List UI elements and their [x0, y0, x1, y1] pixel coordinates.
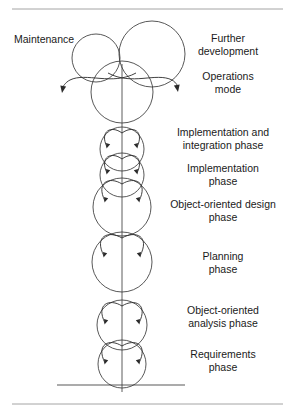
- loop-object-oriented-design-right-arrowhead: [136, 197, 140, 203]
- label-further-development: Further development: [168, 32, 288, 57]
- loop-requirements-right-arrowhead: [136, 359, 140, 365]
- loop-object-oriented-analysis-right-arrowhead: [136, 319, 140, 325]
- loop-object-oriented-design-left-arrowhead: [104, 197, 108, 203]
- loop-implementation-integration-right-arrowhead: [134, 143, 138, 149]
- loop-implementation-right-arrowhead: [134, 169, 138, 175]
- loop-implementation-integration-left-arrowhead: [106, 143, 110, 149]
- loop-object-oriented-analysis-left-arrowhead: [104, 319, 108, 325]
- loop-planning-right-arrowhead: [137, 252, 141, 258]
- loop-implementation-left-arrowhead: [106, 169, 110, 175]
- maintenance-outflow-arrow-head: [60, 86, 66, 93]
- outflow-arrows: [60, 73, 179, 93]
- label-planning-phase: Planning phase: [156, 250, 290, 275]
- label-maintenance: Maintenance: [14, 33, 94, 46]
- label-implementation-phase: Implementation phase: [156, 162, 290, 187]
- label-object-oriented-analysis-phase: Object-oriented analysis phase: [156, 304, 290, 329]
- label-object-oriented-design-phase: Object-oriented design phase: [152, 198, 294, 223]
- fountain-model-figure: Maintenance Further development Operatio…: [0, 0, 295, 420]
- label-implementation-and-integration-phase: Implementation and integration phase: [156, 126, 290, 151]
- maintenance-outflow-arrow-curve: [62, 73, 136, 88]
- loop-requirements-left-arrowhead: [104, 359, 108, 365]
- loop-planning-left-arrowhead: [103, 252, 107, 258]
- label-operations-mode: Operations mode: [168, 70, 288, 95]
- label-requirements-phase: Requirements phase: [156, 348, 290, 373]
